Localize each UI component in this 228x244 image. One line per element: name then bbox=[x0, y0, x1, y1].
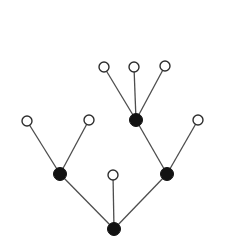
tree-edge-leaf-top-left-internal-upper bbox=[104, 67, 136, 120]
filled-node-internal-upper bbox=[130, 114, 143, 127]
open-node-leaf-top-right bbox=[160, 61, 170, 71]
tree-edge-internal-upper-internal-right bbox=[136, 120, 167, 174]
tree-edge-internal-right-root bbox=[114, 174, 167, 229]
open-node-leaf-mid-left bbox=[84, 115, 94, 125]
tree-edge-leaf-mid-left-internal-left bbox=[60, 120, 89, 174]
tree-edge-internal-left-root bbox=[60, 174, 114, 229]
filled-node-root bbox=[108, 223, 121, 236]
open-node-leaf-far-right bbox=[193, 115, 203, 125]
tree-edge-leaf-far-right-internal-right bbox=[167, 120, 198, 174]
tree-edge-leaf-top-right-internal-upper bbox=[136, 66, 165, 120]
open-node-leaf-center bbox=[108, 170, 118, 180]
tree-edge-leaf-top-middle-internal-upper bbox=[134, 67, 136, 120]
tree-diagram-figure bbox=[0, 0, 228, 244]
tree-edge-leaf-center-root bbox=[113, 175, 114, 229]
filled-node-internal-left bbox=[54, 168, 67, 181]
open-node-leaf-top-left bbox=[99, 62, 109, 72]
tree-diagram bbox=[0, 0, 228, 244]
open-node-leaf-far-left bbox=[22, 116, 32, 126]
open-node-leaf-top-middle bbox=[129, 62, 139, 72]
tree-edge-leaf-far-left-internal-left bbox=[27, 121, 60, 174]
filled-node-internal-right bbox=[161, 168, 174, 181]
